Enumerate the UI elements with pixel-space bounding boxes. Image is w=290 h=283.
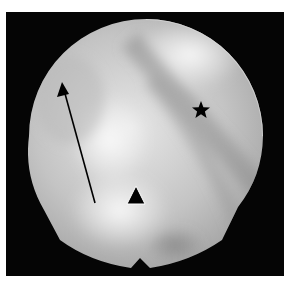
scope-field xyxy=(0,0,290,283)
endoscopic-image xyxy=(0,0,290,283)
